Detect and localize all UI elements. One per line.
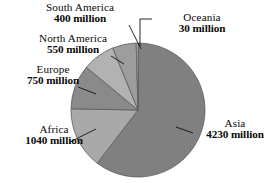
slice-label-north-america: North America 550 million	[14, 33, 132, 56]
slice-label-south-america: South America 400 million	[21, 2, 139, 25]
slice-label-africa-value: 1040 million	[2, 135, 106, 146]
slice-label-north-america-value: 550 million	[14, 44, 132, 55]
slice-label-europe: Europe 750 million	[7, 64, 99, 87]
slice-label-south-america-value: 400 million	[21, 13, 139, 24]
slice-label-oceania: Oceania 30 million	[156, 12, 248, 35]
pie-chart-figure: South America 400 million North America …	[0, 0, 276, 183]
slice-label-asia: Asia 4230 million	[196, 118, 274, 141]
leader-line-oceania	[140, 19, 152, 46]
slice-label-oceania-value: 30 million	[156, 23, 248, 34]
slice-label-africa: Africa 1040 million	[2, 124, 106, 147]
slice-label-europe-value: 750 million	[7, 75, 99, 86]
slice-label-asia-value: 4230 million	[196, 129, 274, 140]
